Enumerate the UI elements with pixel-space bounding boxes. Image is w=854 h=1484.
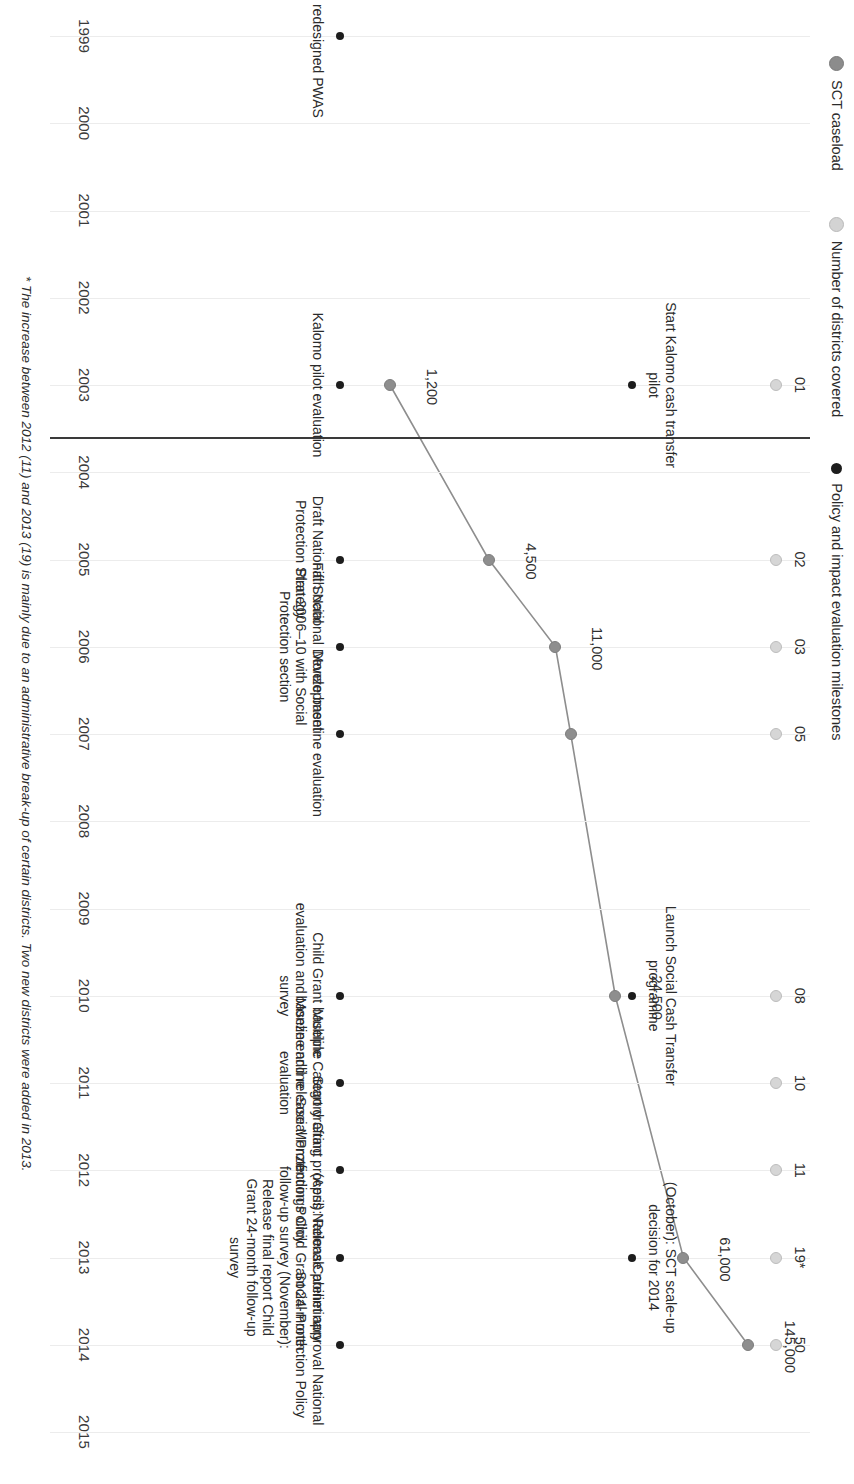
gridline <box>50 1345 810 1346</box>
policy-milestone-text-1999: Launch redesigned PWAS <box>309 0 326 131</box>
year-tick-2008: 2008 <box>76 804 93 838</box>
policy-milestone-dot-2014 <box>336 1341 344 1349</box>
caseload-point-2003 <box>384 379 396 391</box>
caseload-point-2005 <box>483 554 495 566</box>
programme-milestone-dot-2013 <box>628 1254 636 1262</box>
year-tick-2013: 2013 <box>76 1240 93 1274</box>
gridline <box>50 298 810 299</box>
district-point-2005 <box>770 554 782 566</box>
policy-milestone-dot-2011 <box>336 1079 344 1087</box>
legend-label-sct-caseload: SCT caseload <box>829 80 844 171</box>
caseload-value-label-2014: 145,000 <box>782 1321 798 1373</box>
caseload-point-2010 <box>609 990 621 1002</box>
gridline <box>50 472 810 473</box>
policy-milestone-dot-2013 <box>336 1254 344 1262</box>
policy-milestone-text-2003: Kalomo pilot evaluation <box>309 290 326 480</box>
legend-item-milestones: Policy and impact evaluation milestones <box>829 463 844 740</box>
gridline <box>50 909 810 910</box>
programme-milestone-text-2013: (October): SCT scale-up decision for 201… <box>646 1163 679 1353</box>
policy-milestone-dot-1999 <box>336 32 344 40</box>
figure-rotator: SCT caseload Number of districts covered… <box>0 0 854 1484</box>
district-point-2007 <box>770 728 782 740</box>
year-tick-2007: 2007 <box>76 717 93 751</box>
district-label-2013: 19* <box>792 1247 808 1269</box>
district-label-2003: 01 <box>792 377 808 393</box>
gridline <box>50 211 810 212</box>
timeline-chart: SCT caseload Number of districts covered… <box>0 0 854 1484</box>
district-label-2007: 05 <box>792 726 808 742</box>
gridline <box>50 1258 810 1259</box>
caseload-line-series <box>50 0 810 1484</box>
year-tick-2009: 2009 <box>76 891 93 925</box>
year-tick-1999: 1999 <box>76 19 93 53</box>
gridline <box>50 734 810 735</box>
caseload-value-label-2013: 61,000 <box>717 1237 733 1281</box>
policy-milestone-dot-2006 <box>336 643 344 651</box>
programme-milestone-text-2003: Start Kalomo cash transfer pilot <box>646 290 679 480</box>
year-tick-2011: 2011 <box>76 1066 93 1099</box>
legend-item-districts-covered: Number of districts covered <box>829 217 844 417</box>
legend-label-districts-covered: Number of districts covered <box>829 241 844 417</box>
programme-milestone-dot-2010 <box>628 992 636 1000</box>
district-label-2006: 03 <box>792 639 808 655</box>
gridline <box>50 1432 810 1433</box>
district-label-2012: 11 <box>792 1163 808 1178</box>
year-tick-2003: 2003 <box>76 368 93 402</box>
caseload-value-label-2005: 4,500 <box>523 543 539 579</box>
milestone-marker-icon <box>831 463 842 474</box>
section-divider <box>50 437 810 439</box>
policy-milestone-dot-2012 <box>336 1166 344 1174</box>
district-label-2011: 10 <box>792 1075 808 1091</box>
district-point-2014 <box>770 1339 782 1351</box>
caseload-marker-icon <box>829 56 844 71</box>
policy-milestone-dot-2007 <box>336 730 344 738</box>
year-tick-2000: 2000 <box>76 106 93 140</box>
policy-milestone-dot-2003 <box>336 381 344 389</box>
year-tick-2006: 2006 <box>76 630 93 664</box>
policy-milestone-text-2014: Cabinet approval National Social Protect… <box>293 1250 326 1440</box>
gridline <box>50 36 810 37</box>
year-tick-2005: 2005 <box>76 542 93 576</box>
gridline <box>50 1083 810 1084</box>
gridline <box>50 996 810 997</box>
gridline <box>50 647 810 648</box>
plot-area: 1999200020012002200320042005200620072008… <box>50 0 810 1484</box>
caseload-point-2007 <box>565 728 577 740</box>
district-point-2013 <box>770 1252 782 1264</box>
caseload-point-2013 <box>677 1252 689 1264</box>
policy-milestone-dot-2010 <box>336 992 344 1000</box>
district-point-2011 <box>770 1077 782 1089</box>
year-tick-2004: 2004 <box>76 455 93 489</box>
gridline <box>50 560 810 561</box>
caseload-point-2006 <box>549 641 561 653</box>
year-tick-2002: 2002 <box>76 281 93 315</box>
caseload-value-label-2006: 11,000 <box>589 627 605 670</box>
programme-milestone-text-2010: Launch Social Cash Transfer programme <box>646 901 679 1091</box>
district-point-2003 <box>770 379 782 391</box>
policy-milestone-dot-2005 <box>336 556 344 564</box>
chart-legend: SCT caseload Number of districts covered… <box>829 56 844 740</box>
policy-milestone-text-2007: Monze baseline evaluation <box>309 639 326 829</box>
year-tick-2012: 2012 <box>76 1153 93 1187</box>
legend-item-sct-caseload: SCT caseload <box>829 56 844 171</box>
district-label-2010: 08 <box>792 988 808 1004</box>
district-point-2010 <box>770 990 782 1002</box>
gridline <box>50 123 810 124</box>
caseload-value-label-2003: 1,200 <box>424 369 440 405</box>
gridline <box>50 821 810 822</box>
district-point-2006 <box>770 641 782 653</box>
gridline <box>50 1170 810 1171</box>
year-tick-2015: 2015 <box>76 1415 93 1449</box>
year-tick-2014: 2014 <box>76 1328 93 1362</box>
year-tick-2010: 2010 <box>76 979 93 1013</box>
districts-marker-icon <box>829 217 844 232</box>
year-tick-2001: 2001 <box>76 193 93 227</box>
district-label-2005: 02 <box>792 551 808 567</box>
legend-label-milestones: Policy and impact evaluation milestones <box>829 483 844 740</box>
caseload-point-2014 <box>742 1339 754 1351</box>
programme-milestone-dot-2003 <box>628 381 636 389</box>
footnote: * The increase between 2012 (11) and 201… <box>19 276 34 1171</box>
district-point-2012 <box>770 1164 782 1176</box>
